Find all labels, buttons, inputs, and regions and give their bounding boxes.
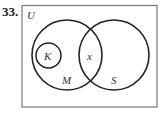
venn-diagram: U K x M S [0, 0, 161, 115]
label-k: K [43, 50, 52, 62]
label-m: M [61, 74, 72, 86]
label-u: U [27, 9, 36, 21]
label-s: S [111, 74, 117, 86]
label-x: x [86, 50, 92, 62]
